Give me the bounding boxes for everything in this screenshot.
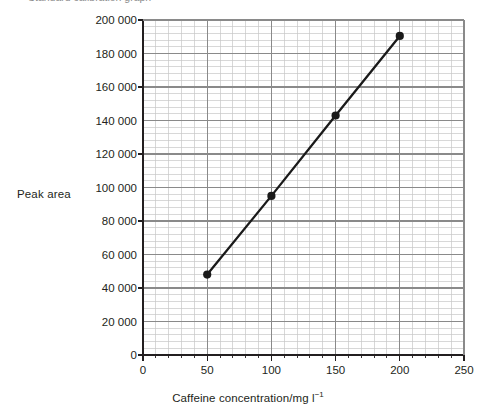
y-axis-tick-label: 180 000 xyxy=(95,48,137,60)
y-axis-tick-label: 80 000 xyxy=(102,215,137,227)
y-axis-tick-label: 40 000 xyxy=(102,282,137,294)
data-point-marker xyxy=(332,111,340,119)
x-axis-tick-label: 50 xyxy=(201,364,214,376)
data-point-marker xyxy=(396,32,404,40)
x-axis-tick-label: 0 xyxy=(140,364,146,376)
y-axis-tick-label: 140 000 xyxy=(95,115,137,127)
data-point-marker xyxy=(203,271,211,279)
y-axis-title: Peak area xyxy=(17,188,71,200)
y-axis-tick-label: 60 000 xyxy=(102,249,137,261)
y-axis-tick-label: 200 000 xyxy=(95,14,137,26)
x-axis-title-text: Caffeine concentration/mg l xyxy=(172,392,315,404)
x-axis-tick-label: 100 xyxy=(262,364,281,376)
x-axis-title: Caffeine concentration/mg l−1 xyxy=(0,390,496,404)
x-axis-tick-label: 150 xyxy=(326,364,345,376)
y-axis-tick-labels: 020 00040 00060 00080 000100 000120 0001… xyxy=(0,0,137,414)
data-point-marker xyxy=(267,192,275,200)
x-axis-title-superscript: −1 xyxy=(315,390,324,399)
y-axis-tick-label: 0 xyxy=(131,349,137,361)
y-axis-tick-label: 160 000 xyxy=(95,81,137,93)
data-line xyxy=(207,36,400,275)
y-axis-tick-label: 20 000 xyxy=(102,316,137,328)
x-axis-tick-label: 200 xyxy=(390,364,409,376)
y-axis-tick-label: 100 000 xyxy=(95,182,137,194)
grid-major-lines xyxy=(143,20,464,355)
x-axis-tick-labels: 050100150200250 xyxy=(0,364,496,384)
y-axis-tick-label: 120 000 xyxy=(95,148,137,160)
calibration-graph-figure: Standard calibration graph 020 00040 000… xyxy=(0,0,496,414)
axis-tick-marks xyxy=(138,20,465,361)
x-axis-tick-label: 250 xyxy=(454,364,473,376)
